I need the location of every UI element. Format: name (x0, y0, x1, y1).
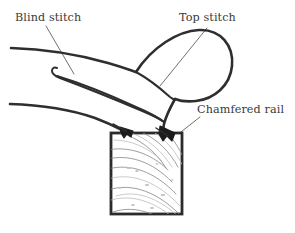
label-top-stitch: Top stitch (179, 11, 236, 24)
diagram-canvas: Blind stitch Top stitch Chamfered rail (0, 0, 295, 233)
folded-hem (52, 68, 164, 122)
label-chamfered-rail: Chamfered rail (197, 103, 284, 116)
chamfered-rail-block (108, 133, 186, 233)
chamfered-rail-diagram: Blind stitch Top stitch Chamfered rail (0, 0, 295, 233)
rolled-edge-seam (136, 72, 175, 99)
label-blind-stitch: Blind stitch (15, 11, 81, 24)
rolled-upholstery-edge (11, 30, 232, 134)
under-layer-sweep (10, 104, 126, 132)
rolled-edge-outline (136, 30, 232, 101)
cover-fabric-layer (11, 48, 136, 72)
under-fabric-layer (10, 104, 126, 132)
top-stitch-leader (160, 28, 207, 86)
